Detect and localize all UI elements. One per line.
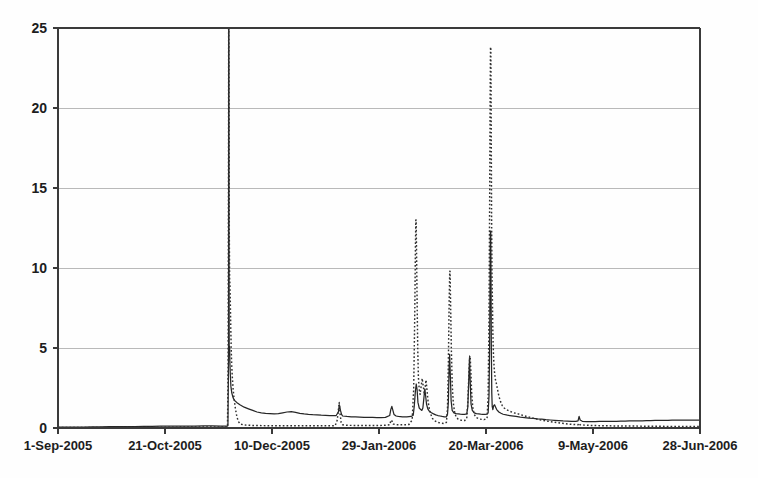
x-tick-label-3: 29-Jan-2006	[342, 438, 416, 453]
time-series-chart: 0510152025 1-Sep-200521-Oct-200510-Dec-2…	[0, 0, 758, 478]
x-tick-label-6: 28-Jun-2006	[662, 438, 737, 453]
x-tick-label-4: 20-Mar-2006	[448, 438, 523, 453]
y-tick-label-25: 25	[31, 20, 47, 36]
chart-container: 0510152025 1-Sep-200521-Oct-200510-Dec-2…	[0, 0, 758, 478]
x-tick-label-5: 9-May-2006	[558, 438, 628, 453]
x-tick-label-0: 1-Sep-2005	[24, 438, 93, 453]
y-tick-label-10: 10	[31, 260, 47, 276]
y-tick-label-5: 5	[39, 340, 47, 356]
y-tick-label-20: 20	[31, 100, 47, 116]
x-tick-label-2: 10-Dec-2005	[234, 438, 310, 453]
y-tick-label-0: 0	[39, 420, 47, 436]
y-tick-label-15: 15	[31, 180, 47, 196]
x-tick-label-1: 21-Oct-2005	[128, 438, 202, 453]
chart-background	[0, 0, 758, 478]
